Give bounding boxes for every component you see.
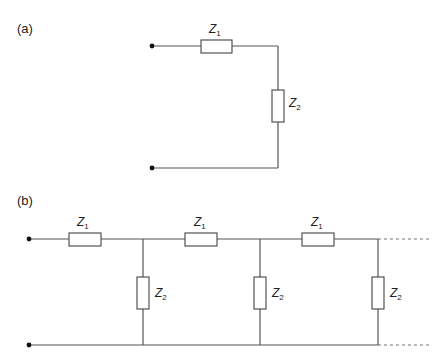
- z2-label: Z2: [288, 96, 301, 112]
- impedance-z2-resistor: [254, 277, 266, 309]
- z1-label: Z1: [76, 215, 89, 231]
- z1-label: Z1: [208, 22, 221, 38]
- impedance-z1-resistor: [201, 40, 232, 53]
- panel-b-label: (b): [17, 193, 33, 208]
- ladder-section-1: Z1 Z2: [69, 215, 167, 345]
- impedance-z1-resistor: [302, 233, 334, 246]
- z2-label: Z2: [154, 286, 167, 302]
- z1-label: Z1: [310, 215, 323, 231]
- ladder-section-2: Z1 Z2: [185, 215, 284, 345]
- impedance-z1-resistor: [69, 233, 101, 246]
- impedance-z2-resistor: [372, 277, 384, 309]
- panel-a: (a) Z1 Z2: [17, 21, 301, 170]
- z1-label: Z1: [193, 215, 206, 231]
- impedance-z1-resistor: [185, 233, 217, 246]
- input-terminal-top: [27, 237, 32, 242]
- impedance-z2-resistor: [137, 277, 149, 309]
- z2-label: Z2: [271, 286, 284, 302]
- input-terminal-top: [150, 44, 155, 49]
- ladder-section-3: Z1 Z2: [302, 215, 402, 345]
- z2-label: Z2: [389, 286, 402, 302]
- input-terminal-bottom: [27, 343, 32, 348]
- input-terminal-bottom: [150, 166, 155, 171]
- panel-a-label: (a): [17, 21, 33, 36]
- impedance-z2-resistor: [272, 90, 284, 122]
- panel-b: (b) Z1 Z2 Z1 Z2 Z: [17, 193, 430, 347]
- ladder-network-diagram: (a) Z1 Z2 (b) Z1: [0, 0, 438, 362]
